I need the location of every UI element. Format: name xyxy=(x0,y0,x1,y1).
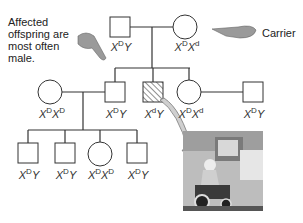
gen2-son-in-law-square xyxy=(243,82,263,102)
gen3-son2-square xyxy=(55,143,75,163)
gen1-father-square xyxy=(110,17,130,37)
genotype-gen3-son2: XDY xyxy=(56,167,76,181)
gen3-son1-square xyxy=(18,143,38,163)
genotype-gen2-affected-son: XdY xyxy=(144,106,163,120)
genotype-gen2-son-in-law: XDY xyxy=(244,106,264,120)
gen3-daughter-circle xyxy=(88,142,112,166)
gen2-son-square xyxy=(105,82,125,102)
genotype-gen2-son: XDY xyxy=(106,106,126,120)
gen2-carrier-daughter-circle xyxy=(177,80,201,104)
genotype-gen3-daughter: XDXD xyxy=(88,167,114,181)
genotype-gen1-father: XDY xyxy=(111,39,131,53)
genotype-gen1-mother: XDXd xyxy=(175,39,200,53)
carrier-label: Carrier xyxy=(262,27,296,39)
gen1-mother-circle xyxy=(173,15,197,39)
genotype-gen2-spouse: XDXD xyxy=(39,106,65,120)
gen2-affected-son-square xyxy=(143,82,163,102)
wheelchair-atm-photo xyxy=(183,131,263,211)
pointing-hand-icon-carrier xyxy=(212,26,256,38)
genotype-gen3-son3: XDY xyxy=(128,167,148,181)
pointing-hand-icon xyxy=(78,33,106,60)
genotype-gen2-carrier-daughter: XDXd xyxy=(179,106,204,120)
gen2-spouse-circle xyxy=(38,80,62,104)
genotype-gen3-son1: XDY xyxy=(19,167,39,181)
gen3-son3-square xyxy=(127,143,147,163)
